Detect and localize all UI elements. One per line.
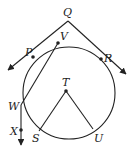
label-X: X [9,125,19,138]
point-R [99,57,103,61]
label-T: T [62,76,71,89]
ray-QP [8,21,68,70]
label-S: S [32,132,40,145]
label-Q: Q [63,6,72,19]
label-U: U [94,132,104,145]
point-X [19,128,23,132]
label-P: P [24,46,33,59]
label-R: R [103,52,112,65]
point-T [64,89,68,93]
segment-TS [39,91,66,131]
label-V: V [60,30,69,43]
segment-TU [66,91,93,129]
label-W: W [8,100,21,113]
geometry-diagram: Q P V R T W X S U [0,0,136,152]
circle [23,47,115,139]
